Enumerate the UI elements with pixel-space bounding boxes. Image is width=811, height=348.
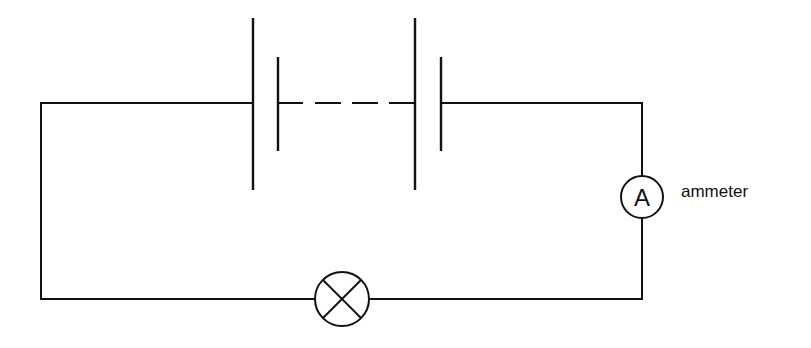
ammeter-letter: A [634, 184, 650, 211]
battery-cell-2 [415, 18, 441, 190]
ammeter-label: ammeter [681, 182, 748, 201]
wire-right-bottom [369, 218, 642, 299]
wire-right-top [441, 103, 642, 176]
ammeter-symbol: A [621, 176, 663, 218]
circuit-diagram: A ammeter [0, 0, 811, 348]
battery-cell-1 [253, 18, 278, 190]
lamp-symbol [315, 272, 369, 326]
wire-left [41, 103, 315, 299]
